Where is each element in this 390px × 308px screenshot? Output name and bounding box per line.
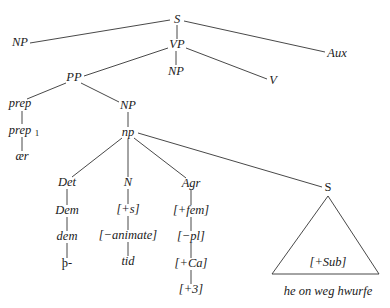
node-feature-plus-Sub: [+Sub]	[310, 255, 347, 269]
node-np: np	[122, 125, 135, 139]
node-VP: VP	[169, 37, 185, 51]
node-Det: Det	[57, 175, 77, 189]
node-tid: tid	[121, 254, 135, 268]
node-S-sub: S	[325, 180, 332, 194]
node-feature-plus-s: [+s]	[116, 202, 139, 216]
node-prep1-label: prep	[8, 123, 31, 137]
subclause-text: he on weg hwurfe	[284, 284, 373, 298]
node-NP-object: NP	[167, 64, 184, 78]
edge-PP-prep	[27, 83, 66, 99]
node-V: V	[269, 73, 278, 87]
edge-np-S	[138, 133, 322, 187]
node-Dem: Dem	[54, 203, 79, 217]
edge-VP-PP	[84, 48, 168, 76]
edge-S-NP	[30, 20, 170, 43]
tree-nodes: S NP VP Aux PP NP V prep NP prep 1 np ær…	[8, 12, 373, 298]
node-prep: prep	[8, 96, 31, 110]
syntax-tree-diagram: S NP VP Aux PP NP V prep NP prep 1 np ær…	[0, 0, 390, 308]
tree-edges	[22, 20, 379, 284]
node-thorn: þ-	[62, 256, 72, 270]
node-feature-minus-pl: [−pl]	[177, 229, 205, 243]
node-S-root: S	[174, 12, 181, 26]
node-prep1-subscript: 1	[35, 128, 40, 138]
node-feature-plus-3: [+3]	[179, 282, 204, 296]
node-NP-subject: NP	[11, 35, 28, 49]
node-PP: PP	[65, 70, 82, 84]
node-dem: dem	[57, 229, 78, 243]
node-NP-pp: NP	[119, 98, 136, 112]
node-N: N	[123, 175, 133, 189]
node-feature-minus-animate: [−animate]	[99, 228, 158, 242]
edge-VP-V	[186, 48, 267, 79]
node-Agr: Agr	[181, 176, 201, 190]
edge-PP-NP	[81, 83, 119, 102]
edge-np-Agr	[134, 138, 186, 178]
node-aer: ær	[15, 149, 28, 163]
edge-S-Aux	[184, 21, 325, 52]
node-feature-plus-Ca: [+Ca]	[175, 256, 208, 270]
node-prep1: prep 1	[8, 123, 39, 138]
node-feature-plus-fem: [+fem]	[173, 203, 209, 217]
node-Aux: Aux	[326, 46, 347, 60]
edge-np-Det	[72, 138, 122, 177]
